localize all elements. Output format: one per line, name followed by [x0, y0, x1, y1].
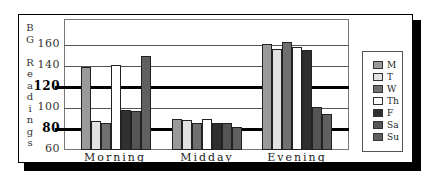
y-axis-label-char: R — [24, 57, 36, 69]
bar-midday-su — [232, 127, 242, 150]
legend-label: Sa — [387, 120, 399, 130]
y-axis-label-char: n — [24, 114, 36, 126]
y-axis-label-char: e — [24, 68, 36, 80]
legend-label: T — [387, 72, 393, 82]
y-axis-label-char: g — [24, 126, 36, 138]
legend: MTWThFSaSu — [362, 51, 403, 152]
bar-evening-su — [322, 114, 332, 150]
bar-midday-th — [202, 119, 212, 151]
bar-midday-m — [172, 119, 182, 151]
legend-item-su: Su — [373, 132, 399, 142]
x-axis-label-midday: Midday — [162, 151, 252, 164]
bar-midday-sa — [222, 123, 232, 150]
bar-morning-sa — [131, 111, 141, 150]
bar-evening-m — [262, 44, 272, 150]
bar-morning-th — [111, 65, 121, 150]
y-axis-label-char: B — [24, 22, 36, 34]
legend-label: Su — [387, 132, 399, 142]
legend-swatch — [373, 97, 383, 105]
legend-swatch — [373, 121, 383, 129]
legend-label: M — [387, 60, 396, 70]
bar-morning-m — [81, 67, 91, 150]
legend-item-sa: Sa — [373, 120, 399, 130]
x-axis-label-evening: Evening — [252, 151, 342, 164]
legend-swatch — [373, 73, 383, 81]
bar-evening-th — [292, 47, 302, 150]
y-axis-label-char: s — [24, 137, 36, 149]
bar-evening-t — [272, 49, 282, 150]
y-axis-label-char: a — [24, 80, 36, 92]
legend-swatch — [373, 85, 383, 93]
bar-morning-f — [121, 110, 131, 150]
y-axis-label-char: G — [24, 34, 36, 46]
bar-midday-w — [192, 123, 202, 150]
y-axis-label-char: d — [24, 91, 36, 103]
bar-evening-w — [282, 42, 292, 150]
legend-label: Th — [387, 96, 399, 106]
gridline-160 — [64, 45, 349, 46]
legend-swatch — [373, 109, 383, 117]
bar-morning-t — [91, 121, 101, 150]
legend-item-f: F — [373, 108, 393, 118]
x-axis-label-morning: Morning — [70, 151, 160, 164]
y-axis-label-char — [24, 45, 36, 57]
legend-swatch — [373, 61, 383, 69]
legend-item-w: W — [373, 84, 396, 94]
y-axis-label-char: i — [24, 103, 36, 115]
bar-midday-f — [212, 123, 222, 150]
legend-item-t: T — [373, 72, 393, 82]
bar-midday-t — [182, 120, 192, 150]
y-axis-label: BG Readings — [24, 22, 36, 149]
bar-evening-f — [302, 50, 312, 150]
bar-morning-w — [101, 123, 111, 150]
legend-label: W — [387, 84, 396, 94]
bar-morning-su — [141, 56, 151, 151]
legend-item-th: Th — [373, 96, 399, 106]
legend-item-m: M — [373, 60, 396, 70]
legend-swatch — [373, 133, 383, 141]
legend-label: F — [387, 108, 393, 118]
bar-evening-sa — [312, 107, 322, 150]
